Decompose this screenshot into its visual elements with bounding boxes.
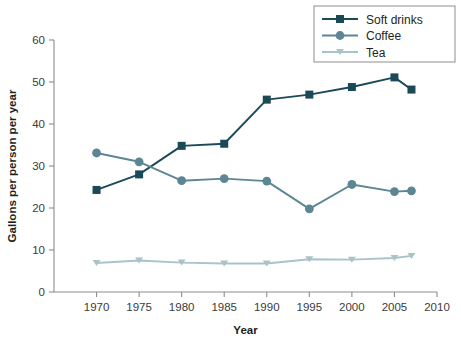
chart-legend: Soft drinksCoffeeTea <box>314 6 455 62</box>
data-point-marker <box>305 204 314 213</box>
x-axis-tick-marks <box>97 292 437 297</box>
data-point-marker <box>135 170 143 178</box>
y-tick-label: 40 <box>32 118 45 130</box>
y-axis-tick-labels: 0102030405060 <box>32 34 45 298</box>
data-point-marker <box>262 177 271 186</box>
series-line <box>97 256 412 264</box>
data-point-marker <box>92 149 101 158</box>
series-tea <box>93 253 416 267</box>
data-point-marker <box>135 157 144 166</box>
x-tick-label: 1975 <box>126 301 152 313</box>
y-axis-title: Gallons per person per year <box>6 89 18 242</box>
y-tick-label: 60 <box>32 34 45 46</box>
legend-marker-square <box>336 15 344 23</box>
x-tick-label: 1995 <box>297 301 323 313</box>
x-tick-label: 2005 <box>382 301 408 313</box>
x-tick-label: 2010 <box>424 301 450 313</box>
data-point-marker <box>177 176 186 185</box>
data-point-marker <box>93 186 101 194</box>
legend-label: Coffee <box>366 29 401 43</box>
legend-label: Tea <box>366 46 386 60</box>
line-chart: 0102030405060 19701975198019851990199520… <box>0 0 461 353</box>
x-tick-label: 1970 <box>84 301 110 313</box>
data-point-marker <box>390 187 399 196</box>
data-point-marker <box>178 142 186 150</box>
x-axis-tick-labels: 197019751980198519901995200020052010 <box>84 301 450 313</box>
x-tick-label: 2000 <box>339 301 365 313</box>
data-point-marker <box>263 96 271 104</box>
data-point-marker <box>305 91 313 99</box>
data-point-marker <box>390 73 398 81</box>
series-line <box>97 77 412 190</box>
data-series-layer <box>92 73 416 266</box>
data-point-marker <box>347 180 356 189</box>
chart-container: 0102030405060 19701975198019851990199520… <box>0 0 461 353</box>
x-tick-label: 1980 <box>169 301 195 313</box>
legend-marker-circle <box>336 31 345 40</box>
y-tick-label: 20 <box>32 202 45 214</box>
series-soft-drinks <box>93 73 416 194</box>
y-tick-label: 10 <box>32 244 45 256</box>
y-tick-label: 50 <box>32 76 45 88</box>
y-axis-tick-marks <box>49 40 54 292</box>
x-tick-label: 1990 <box>254 301 280 313</box>
legend-label: Soft drinks <box>366 13 423 27</box>
series-coffee <box>92 149 416 214</box>
data-point-marker <box>407 186 416 195</box>
data-point-marker <box>407 86 415 94</box>
data-point-marker <box>348 83 356 91</box>
y-tick-label: 0 <box>39 286 45 298</box>
x-axis-title: Year <box>233 324 258 336</box>
x-tick-label: 1985 <box>211 301 237 313</box>
series-line <box>97 153 412 209</box>
data-point-marker <box>220 140 228 148</box>
y-tick-label: 30 <box>32 160 45 172</box>
data-point-marker <box>220 174 229 183</box>
